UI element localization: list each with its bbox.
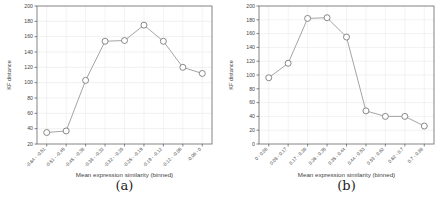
x-tick-label: 0 - 0.08 [254, 146, 269, 161]
y-tick-label: 80 [249, 86, 255, 92]
line-chart-a: 20406080100120140160180200-0.64 - -0.51-… [0, 0, 222, 180]
x-tick-label: -0.19 - -0.12 [142, 146, 164, 168]
data-point-marker [102, 38, 108, 44]
y-tick-label: 0 [252, 141, 255, 147]
x-tick-label: 0.62 - 0.7 [387, 146, 405, 164]
data-point-marker [324, 15, 330, 21]
y-tick-label: 160 [246, 30, 255, 36]
figure-row: 20406080100120140160180200-0.64 - -0.51-… [0, 0, 445, 206]
y-tick-label: 200 [24, 3, 33, 9]
y-tick-label: 20 [249, 127, 255, 133]
x-tick-label: -0.38 - -0.32 [84, 146, 106, 168]
y-tick-label: 40 [27, 125, 33, 131]
x-tick-label: 0.7 - 0.88 [407, 146, 425, 164]
y-tick-label: 120 [246, 58, 255, 64]
caption-a: (a) [0, 178, 222, 193]
y-tick-label: 60 [249, 99, 255, 105]
x-tick-label: -0.12 - -0.06 [161, 146, 183, 168]
data-point-marker [382, 113, 388, 119]
caption-b: (b) [222, 178, 444, 193]
x-tick-label: -0.64 - -0.51 [25, 146, 47, 168]
chart-panel-b: 0204060801001201401601802000 - 0.080.08 … [222, 0, 444, 206]
chart-panel-a: 20406080100120140160180200-0.64 - -0.51-… [0, 0, 222, 206]
data-point-marker [344, 34, 350, 40]
data-point-marker [266, 75, 272, 81]
y-tick-label: 140 [24, 49, 33, 55]
y-tick-label: 180 [246, 17, 255, 23]
y-tick-label: 40 [249, 113, 255, 119]
data-point-marker [199, 70, 205, 76]
x-axis-title: Mean expression similarity (binned) [76, 171, 173, 178]
data-point-marker [285, 60, 291, 66]
x-tick-label: 0.26 - 0.35 [308, 146, 327, 165]
y-axis-title: KF distance [228, 60, 234, 90]
data-point-marker [305, 15, 311, 21]
data-point-marker [363, 108, 369, 114]
data-point-marker [421, 123, 427, 129]
x-axis-title: Mean expression similarity (binned) [298, 171, 395, 178]
y-tick-label: 120 [24, 64, 33, 70]
y-tick-label: 180 [24, 18, 33, 24]
x-tick-label: -0.45 - -0.38 [64, 146, 86, 168]
data-point-marker [122, 38, 128, 44]
data-point-marker [180, 64, 186, 70]
x-tick-label: -0.25 - -0.19 [122, 146, 144, 168]
x-tick-label: 0.53 - 0.62 [366, 146, 385, 165]
data-point-marker [160, 38, 166, 44]
x-tick-label: 0.17 - 0.26 [288, 146, 307, 165]
line-chart-b: 0204060801001201401601802000 - 0.080.08 … [222, 0, 444, 180]
y-tick-label: 140 [246, 44, 255, 50]
y-tick-label: 20 [27, 141, 33, 147]
x-tick-label: 0.35 - 0.44 [327, 146, 346, 165]
y-tick-label: 60 [27, 110, 33, 116]
data-point-marker [141, 22, 147, 28]
x-tick-label: -0.51 - -0.45 [45, 146, 67, 168]
x-tick-label: 0.44 - 0.53 [347, 146, 366, 165]
y-axis-title: KF distance [6, 60, 12, 90]
y-tick-label: 200 [246, 3, 255, 9]
y-tick-label: 160 [24, 33, 33, 39]
data-point-marker [83, 77, 89, 83]
data-point-marker [44, 130, 50, 136]
x-tick-label: -0.06 - 0 [186, 146, 202, 162]
x-tick-label: -0.32 - -0.25 [103, 146, 125, 168]
data-point-marker [402, 113, 408, 119]
y-tick-label: 80 [27, 95, 33, 101]
data-point-marker [63, 128, 69, 134]
y-tick-label: 100 [246, 72, 255, 78]
y-tick-label: 100 [24, 79, 33, 85]
x-tick-label: 0.08 - 0.17 [269, 146, 288, 165]
